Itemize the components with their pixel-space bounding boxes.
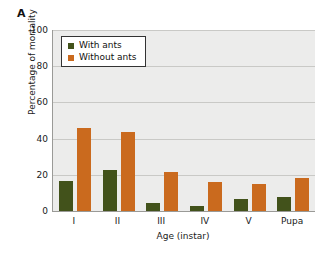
legend-item[interactable]: With ants (68, 41, 136, 50)
x-tick-label: IV (183, 213, 227, 229)
bar[interactable] (295, 178, 309, 211)
figure-panel: A Percentage of mortality 020406080100 I… (0, 0, 332, 263)
bar[interactable] (277, 197, 291, 211)
legend: With antsWithout ants (61, 36, 146, 67)
square-swatch-icon (68, 55, 74, 61)
square-swatch-icon (68, 43, 74, 49)
bar[interactable] (252, 184, 266, 211)
bar[interactable] (77, 128, 91, 211)
bar[interactable] (208, 182, 222, 211)
x-axis-tick-labels: IIIIIIIVVPupa (52, 213, 314, 229)
bar-group (184, 30, 228, 211)
x-axis-title: Age (instar) (52, 231, 314, 241)
legend-item-label: With ants (79, 41, 122, 50)
bar-group (271, 30, 315, 211)
y-tick-label: 0 (20, 207, 48, 216)
bar[interactable] (59, 181, 73, 211)
bar[interactable] (121, 132, 135, 211)
y-tick-label: 80 (20, 62, 48, 71)
y-tick-label: 20 (20, 170, 48, 179)
legend-item[interactable]: Without ants (68, 53, 136, 62)
bar-group (140, 30, 184, 211)
x-tick-label: Pupa (270, 213, 314, 229)
bar[interactable] (164, 172, 178, 211)
y-axis-tick-labels: 020406080100 (20, 24, 48, 217)
panel-letter: A (17, 7, 26, 20)
bar[interactable] (234, 199, 248, 211)
bar[interactable] (146, 203, 160, 211)
bar[interactable] (103, 170, 117, 211)
y-tick-label: 40 (20, 134, 48, 143)
x-tick-label: I (52, 213, 96, 229)
y-tick-label: 60 (20, 98, 48, 107)
y-tick-label: 100 (20, 26, 48, 35)
x-axis-line (52, 211, 315, 212)
x-tick-label: III (139, 213, 183, 229)
x-tick-label: II (96, 213, 140, 229)
legend-item-label: Without ants (79, 53, 136, 62)
bar-group (228, 30, 272, 211)
x-tick-label: V (227, 213, 271, 229)
